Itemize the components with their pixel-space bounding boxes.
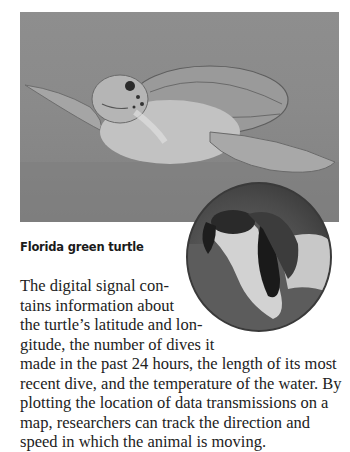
body-line: gitude, the number of dives it (20, 335, 340, 355)
body-line: plotting the location of data transmissi… (20, 393, 340, 413)
body-line: map, researchers can track the direction… (20, 413, 340, 433)
body-line: The digital signal con- (20, 276, 340, 296)
body-line: the turtle’s latitude and lon- (20, 315, 340, 335)
body-line: recent dive, and the temperature of the … (20, 374, 340, 394)
body-line: made in the past 24 hours, the length of… (20, 354, 340, 374)
body-line: speed in which the animal is moving. (20, 432, 340, 452)
body-line: tains information about (20, 296, 340, 316)
body-paragraph: The digital signal con- tains informatio… (20, 276, 340, 452)
figure-caption: Florida green turtle (20, 240, 144, 254)
